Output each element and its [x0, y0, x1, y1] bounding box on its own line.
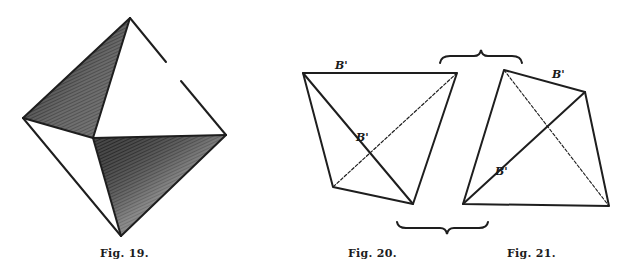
fig19-caption: Fig. 19. — [100, 247, 149, 260]
fig21-label-diagonal: B' — [495, 165, 508, 178]
figure-plate: B' B' B' B' Fig. 19. Fig. 20. Fig. 21. — [0, 0, 625, 278]
fig21-label-top: B' — [552, 68, 565, 81]
figures-drawing — [0, 0, 625, 278]
bottom-brace — [397, 222, 488, 234]
fig20-label-center: B' — [356, 131, 369, 144]
fig20-label-top: B' — [335, 59, 348, 72]
top-brace — [440, 50, 522, 63]
fig21-caption: Fig. 21. — [507, 247, 556, 260]
fig21-quadrilateral — [463, 70, 609, 206]
fig20-caption: Fig. 20. — [348, 247, 397, 260]
fig19-octahedron — [23, 18, 226, 236]
fig21-dashed-diagonal — [504, 70, 609, 206]
fig20-quadrilateral — [303, 73, 457, 204]
fig21-solid-diagonal — [463, 92, 585, 204]
